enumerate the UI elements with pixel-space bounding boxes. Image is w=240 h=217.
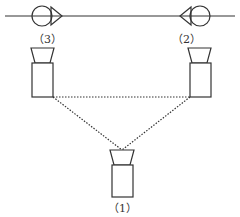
diagram-canvas: （3） （2） （1） xyxy=(0,0,240,217)
connection-lines xyxy=(53,97,190,150)
camera-2-label: （2） xyxy=(172,33,201,46)
camera-3-icon xyxy=(31,48,54,97)
camera-2-icon xyxy=(188,48,211,97)
camera-3-label: （3） xyxy=(33,33,62,46)
camera-1-icon xyxy=(110,150,134,197)
camera-1-label: （1） xyxy=(108,202,137,215)
